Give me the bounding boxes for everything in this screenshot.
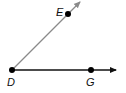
point-d	[9, 67, 15, 73]
angle-diagram: E D G	[0, 0, 126, 93]
point-g	[88, 67, 94, 73]
label-e: E	[56, 6, 64, 18]
label-g: G	[86, 76, 95, 88]
point-e	[65, 11, 71, 17]
label-d: D	[7, 76, 15, 88]
